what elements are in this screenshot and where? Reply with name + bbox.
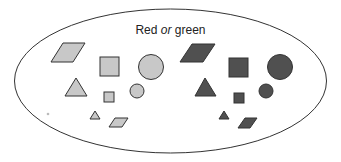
speck — [47, 113, 50, 116]
light-large-circle — [139, 55, 164, 80]
light-small-triangle — [90, 111, 100, 119]
light-small-square — [104, 92, 114, 102]
light-small-circle — [130, 84, 144, 98]
dark-large-parallelogram — [180, 44, 215, 62]
dark-large-square — [229, 58, 248, 77]
light-large-parallelogram — [51, 43, 85, 62]
dark-small-triangle — [219, 111, 229, 119]
light-large-triangle — [65, 78, 87, 96]
title-word-or: or — [161, 23, 172, 37]
set-label: Red or green — [0, 23, 341, 37]
dark-small-parallelogram — [238, 118, 257, 128]
title-word-green: green — [175, 23, 206, 37]
dark-large-circle — [268, 55, 293, 80]
light-large-square — [100, 57, 119, 76]
title-word-red: Red — [135, 23, 157, 37]
dark-small-square — [234, 93, 244, 103]
light-small-parallelogram — [109, 118, 128, 127]
dark-large-triangle — [195, 78, 216, 96]
dark-small-circle — [259, 84, 273, 98]
